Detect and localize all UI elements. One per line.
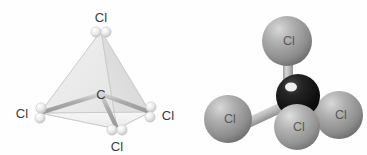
atom-ball-cl-left-a	[36, 103, 46, 113]
atom-cl-bottom: Cl	[274, 104, 320, 150]
label-c-center: C	[96, 87, 106, 102]
atom-ball-cl-left-b	[35, 113, 45, 123]
atom-cl-left: Cl	[204, 95, 252, 143]
label-cl-left: Cl	[16, 106, 29, 121]
label-cl-bottom: Cl	[111, 139, 124, 154]
label-cl-right: Cl	[162, 108, 175, 123]
spacefill-diagram: Cl Cl Cl Cl	[183, 0, 367, 155]
label-cl-top: Cl	[95, 10, 108, 25]
atom-cl-top: Cl	[262, 16, 312, 66]
atom-ball-cl-bottom-a	[107, 125, 117, 135]
atom-ball-cl-right-a	[146, 102, 156, 112]
atom-cl-bottom-label: Cl	[293, 120, 305, 134]
atom-cl-right-label: Cl	[335, 108, 347, 122]
atom-ball-cl-top-a	[91, 27, 101, 37]
atom-ball-cl-right-b	[145, 112, 155, 122]
atom-ball-cl-bottom-b	[117, 125, 127, 135]
atom-cl-top-label: Cl	[283, 34, 295, 48]
molecular-structure-figure: Cl Cl Cl Cl C	[0, 0, 367, 155]
spacefill-panel: Cl Cl Cl Cl	[183, 0, 367, 155]
atom-ball-cl-top-b	[101, 27, 111, 37]
atom-cl-left-label: Cl	[224, 112, 236, 126]
atom-cl-right: Cl	[315, 91, 363, 139]
tetrahedron-diagram: Cl Cl Cl Cl C	[0, 0, 184, 155]
tetrahedron-faces	[40, 31, 150, 129]
tetrahedron-panel: Cl Cl Cl Cl C	[0, 0, 184, 155]
